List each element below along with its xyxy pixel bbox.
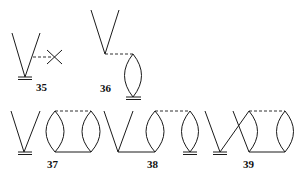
v-vertex <box>91 10 119 54</box>
lens-loop <box>82 111 100 152</box>
diagram-38 <box>104 111 199 155</box>
crossing-line <box>220 111 249 152</box>
diagram-label-39: 39 <box>243 159 254 170</box>
lens-arc <box>249 111 258 152</box>
diagram-label-35: 35 <box>36 82 47 93</box>
diagram-36 <box>91 10 142 100</box>
diagram-label-38: 38 <box>147 159 158 170</box>
lens-loop <box>277 111 294 152</box>
crossing-line <box>233 111 249 152</box>
v-vertex <box>12 33 40 77</box>
lens-loop <box>182 111 199 152</box>
v-vertex <box>104 111 133 152</box>
lens-loop <box>46 111 64 152</box>
v-vertex <box>11 111 40 152</box>
diagram-label-36: 36 <box>100 83 111 94</box>
lens-loop <box>125 54 142 97</box>
diagram-35 <box>12 33 62 80</box>
lens-loop <box>146 111 164 152</box>
diagram-label-37: 37 <box>47 159 58 170</box>
diagram-37 <box>11 111 100 155</box>
diagram-39 <box>205 111 294 155</box>
v-left-line <box>205 111 220 152</box>
